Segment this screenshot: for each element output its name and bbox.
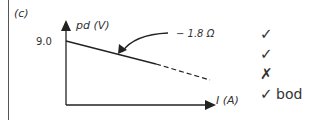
x-axis-arrowhead-icon: [205, 100, 216, 110]
gradient-annotation: − 1.8 Ω: [176, 28, 215, 39]
y-axis-arrowhead-icon: [61, 20, 71, 31]
solid-line: [66, 41, 156, 64]
dashed-extrapolation: [156, 64, 210, 80]
x-axis-label: I (A): [216, 94, 239, 107]
check-mark-2: ✓: [260, 45, 273, 63]
part-label: (c): [14, 7, 29, 20]
cross-mark: ✗: [260, 65, 273, 83]
annotation-arrow: [122, 33, 168, 52]
y-axis-label: pd (V): [75, 19, 110, 32]
annotation-arrowhead-icon: [118, 44, 127, 54]
check-mark-4: ✓: [260, 85, 273, 103]
y-intercept-label: 9.0: [36, 36, 52, 47]
bod-note: bod: [276, 86, 302, 102]
check-mark-1: ✓: [260, 25, 273, 43]
